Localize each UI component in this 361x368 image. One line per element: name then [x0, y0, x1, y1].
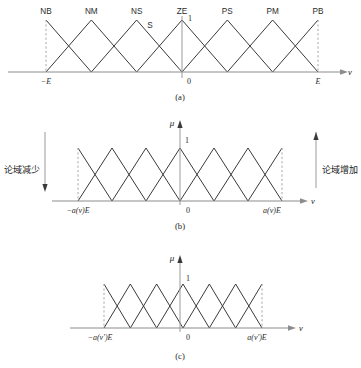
panel-c-x-axis-arrowhead: [288, 325, 296, 331]
panel-b-plot: v μ 1 −a(v)E 0 a(v)E 论域减少 论域增加 (b): [0, 110, 361, 235]
panel-b-origin-label: 0: [186, 206, 190, 215]
panel-c-plot: v μ 1 −a(v′)E 0 a(v′)E (c): [0, 235, 361, 368]
panel-b-x-axis-arrowhead: [300, 198, 308, 204]
membership-function-ns: [112, 148, 180, 201]
panel-b-peak-label: 1: [185, 136, 189, 145]
term-label-ze: ZE: [177, 7, 188, 16]
panel-a-slope-annotation: S: [147, 21, 153, 30]
panel-b-right-tick-label: a(v)E: [263, 206, 281, 215]
fuzzy-membership-figure: NBNMNSZEPSPMPB v −E 0 E S 1 (a): [0, 0, 361, 368]
membership-function-nm: [78, 148, 146, 201]
membership-function-pm: [209, 284, 262, 328]
term-label-ns: NS: [131, 7, 143, 16]
panel-c-peak-label: 1: [186, 274, 190, 283]
panel-a-left-tick-label: −E: [41, 77, 51, 86]
panel-b: v μ 1 −a(v)E 0 a(v)E 论域减少 论域增加 (b): [0, 110, 361, 235]
panel-a-right-tick-label: E: [315, 77, 321, 86]
panel-a-peak-annotation: 1: [188, 14, 192, 23]
membership-function-ps: [180, 148, 248, 201]
term-label-pm: PM: [267, 7, 279, 16]
membership-function-ns: [130, 284, 183, 328]
panel-a-plot: NBNMNSZEPSPMPB v −E 0 E S 1 (a): [0, 0, 361, 110]
panel-a-term-labels: NBNMNSZEPSPMPB: [40, 7, 324, 16]
term-label-pb: PB: [313, 7, 324, 16]
panel-a-x-axis-label: v: [348, 67, 352, 77]
panel-c-left-tick-label: −a(v′)E: [88, 333, 113, 342]
membership-function-nm: [46, 20, 137, 72]
membership-function-ze: [157, 284, 210, 328]
panel-b-right-annotation-label: 论域增加: [322, 164, 358, 175]
panel-b-mu-axis-arrowhead: [177, 120, 182, 128]
panel-b-mu-axis-label: μ: [169, 118, 175, 128]
membership-function-ps: [183, 284, 236, 328]
panel-c: v μ 1 −a(v′)E 0 a(v′)E (c): [0, 235, 361, 368]
panel-c-mu-axis-arrowhead: [177, 255, 182, 263]
term-label-nb: NB: [40, 7, 52, 16]
term-label-ps: PS: [222, 7, 233, 16]
panel-a-origin-label: 0: [187, 77, 191, 86]
panel-b-x-axis-label: v: [311, 196, 315, 206]
panel-c-x-axis-label: v: [299, 323, 303, 333]
panel-a-x-axis-arrowhead: [340, 69, 348, 75]
panel-c-caption: (c): [175, 351, 185, 361]
panel-b-caption: (b): [175, 221, 185, 231]
panel-b-right-annotation-arrowhead: [313, 132, 318, 140]
panel-c-mu-axis-label: μ: [169, 253, 175, 263]
membership-function-ns: [91, 20, 182, 72]
panel-b-left-tick-label: −a(v)E: [66, 206, 89, 215]
panel-c-boundary-lines: [104, 284, 262, 328]
term-label-nm: NM: [85, 7, 98, 16]
panel-c-membership-curves: [104, 284, 262, 328]
membership-function-pm: [214, 148, 282, 201]
membership-function-nm: [104, 284, 157, 328]
panel-b-left-annotation-label: 论域减少: [4, 164, 40, 175]
panel-a-caption: (a): [175, 92, 185, 102]
membership-function-ps: [182, 20, 273, 72]
membership-function-pm: [227, 20, 318, 72]
panel-a: NBNMNSZEPSPMPB v −E 0 E S 1 (a): [0, 0, 361, 110]
panel-b-left-annotation-arrowhead: [42, 184, 47, 192]
panel-c-right-tick-label: a(v′)E: [247, 333, 267, 342]
panel-c-origin-label: 0: [186, 333, 190, 342]
